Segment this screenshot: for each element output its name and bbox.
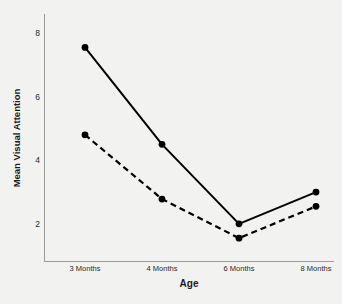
plot-area [44,14,334,262]
data-point-marker [236,235,243,242]
y-axis-tick-label: 2 [26,219,40,229]
data-point-marker [82,44,89,51]
y-axis-tick-label: 8 [26,28,40,38]
plot-svg [44,14,334,262]
x-axis-tick-label: 3 Months [70,264,101,273]
line-chart: Mean Visual Attention 8642 3 Months4 Mon… [0,0,342,304]
y-axis-tick-labels: 8642 [20,14,40,262]
series-line-solid-series [85,47,316,223]
data-point-marker [313,189,320,196]
y-axis-tick-label: 4 [26,155,40,165]
data-point-marker [313,203,320,210]
data-point-marker [159,196,166,203]
x-axis-tick-label: 6 Months [224,264,255,273]
x-axis-tick-labels: 3 Months4 Months6 Months8 Months [44,264,334,278]
y-axis-tick-label: 6 [26,92,40,102]
data-point-marker [159,141,166,148]
x-axis-title: Age [44,278,334,289]
x-axis-tick-label: 4 Months [147,264,178,273]
series-line-dashed-series [85,135,316,238]
data-point-marker [82,131,89,138]
data-series-layer [82,44,320,242]
data-point-marker [236,220,243,227]
x-axis-tick-label: 8 Months [301,264,332,273]
